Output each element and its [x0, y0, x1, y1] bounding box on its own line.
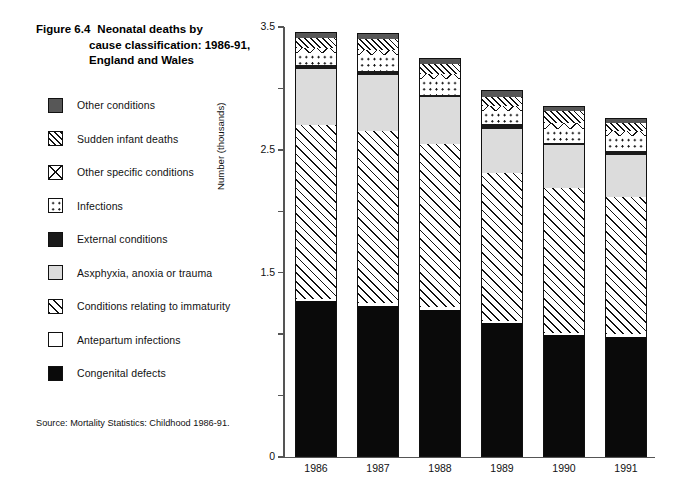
bar-1989[interactable]: [481, 90, 523, 457]
figure-title-line-3: England and Wales: [89, 53, 286, 69]
bar-segment-congenital-defects-1989[interactable]: [481, 323, 523, 457]
legend-label-other-specific-conditions: Other specific conditions: [77, 166, 194, 178]
x-axis-label-1991: 1991: [596, 462, 656, 474]
bar-segment-asxphyxia-anoxia-or-trauma-1988[interactable]: [419, 97, 461, 144]
x-axis-label-1988: 1988: [410, 462, 470, 474]
y-tick-3.5: [278, 26, 284, 27]
y-tick-0.5: [278, 395, 284, 396]
figure-page: Figure 6.4Neonatal deaths by cause class…: [0, 0, 681, 490]
legend-item-congenital-defects: Congenital defects: [48, 364, 288, 382]
legend-label-antepartum-infections: Antepartum infections: [77, 334, 181, 346]
y-tick-2.5: [278, 149, 284, 150]
bar-segment-sudden-infant-deaths-1990[interactable]: [543, 111, 585, 123]
bar-segment-sudden-infant-deaths-1988[interactable]: [419, 64, 461, 74]
legend-swatch-congenital-defects: [48, 366, 63, 381]
legend-item-antepartum-infections: Antepartum infections: [48, 331, 288, 349]
bar-segment-congenital-defects-1991[interactable]: [605, 337, 647, 457]
bar-1991[interactable]: [605, 118, 647, 457]
bar-segment-infections-1988[interactable]: [419, 79, 461, 95]
y-axis-title: Number (thousands): [215, 103, 226, 190]
bar-segment-congenital-defects-1988[interactable]: [419, 310, 461, 457]
bar-1990[interactable]: [543, 106, 585, 457]
bar-segment-conditions-relating-to-immaturity-1987[interactable]: [357, 131, 399, 303]
y-tick-3: [278, 88, 284, 89]
bar-segment-congenital-defects-1986[interactable]: [295, 301, 337, 457]
bar-segment-asxphyxia-anoxia-or-trauma-1986[interactable]: [295, 69, 337, 126]
bar-1988[interactable]: [419, 58, 461, 457]
legend-label-other-conditions: Other conditions: [77, 99, 155, 111]
y-tick-label-0: 0: [241, 450, 275, 462]
source-note: Source: Mortality Statistics: Childhood …: [36, 418, 230, 428]
legend-swatch-other-specific-conditions: [48, 165, 63, 180]
legend-label-congenital-defects: Congenital defects: [77, 367, 166, 379]
legend-swatch-external-conditions: [48, 232, 63, 247]
bar-segment-asxphyxia-anoxia-or-trauma-1989[interactable]: [481, 129, 523, 173]
bar-segment-congenital-defects-1987[interactable]: [357, 306, 399, 457]
y-tick-label-3.5: 3.5: [241, 20, 275, 32]
chart-legend: Other conditions Sudden infant deaths Ot…: [48, 96, 288, 398]
bar-1986[interactable]: [295, 32, 337, 457]
bar-1987[interactable]: [357, 33, 399, 457]
y-tick-label-1.5: 1.5: [241, 266, 275, 278]
bar-segment-asxphyxia-anoxia-or-trauma-1987[interactable]: [357, 75, 399, 132]
legend-label-immaturity: Conditions relating to immaturity: [77, 300, 230, 312]
legend-item-other-specific-conditions: Other specific conditions: [48, 163, 288, 181]
legend-swatch-immaturity: [48, 299, 63, 314]
bar-segment-asxphyxia-anoxia-or-trauma-1990[interactable]: [543, 145, 585, 188]
bar-segment-infections-1989[interactable]: [481, 111, 523, 125]
x-axis-label-1989: 1989: [472, 462, 532, 474]
legend-label-asphyxia: Asxphyxia, anoxia or trauma: [77, 267, 212, 279]
legend-swatch-other-conditions: [48, 98, 63, 113]
bar-segment-sudden-infant-deaths-1986[interactable]: [295, 38, 337, 48]
legend-label-infections: Infections: [77, 200, 123, 212]
bar-segment-infections-1991[interactable]: [605, 136, 647, 151]
bar-segment-sudden-infant-deaths-1991[interactable]: [605, 123, 647, 132]
bar-segment-conditions-relating-to-immaturity-1990[interactable]: [543, 188, 585, 333]
chart-plot-area: 01.52.53.5 Number (thousands) 1986198719…: [283, 20, 663, 470]
bar-segment-infections-1987[interactable]: [357, 55, 399, 71]
legend-swatch-antepartum-infections: [48, 332, 63, 347]
y-tick-1: [278, 333, 284, 334]
bar-segment-conditions-relating-to-immaturity-1991[interactable]: [605, 197, 647, 335]
bar-segment-conditions-relating-to-immaturity-1989[interactable]: [481, 173, 523, 320]
legend-item-other-conditions: Other conditions: [48, 96, 288, 114]
figure-title-line-2: cause classification: 1986-91,: [89, 38, 286, 54]
y-tick-1.5: [278, 272, 284, 273]
y-tick-label-2.5: 2.5: [241, 143, 275, 155]
bar-segment-conditions-relating-to-immaturity-1988[interactable]: [419, 144, 461, 307]
y-axis-line: [283, 27, 285, 457]
legend-swatch-infections: [48, 198, 63, 213]
bar-segment-sudden-infant-deaths-1987[interactable]: [357, 39, 399, 50]
bar-segment-infections-1986[interactable]: [295, 53, 337, 65]
bar-segment-infections-1990[interactable]: [543, 129, 585, 143]
figure-number: Figure 6.4: [36, 22, 90, 38]
bar-segment-conditions-relating-to-immaturity-1986[interactable]: [295, 125, 337, 298]
y-tick-0: [278, 456, 284, 457]
legend-swatch-asphyxia: [48, 265, 63, 280]
y-tick-2: [278, 211, 284, 212]
figure-title-line-1: Neonatal deaths by: [97, 23, 202, 35]
legend-swatch-sudden-infant-deaths: [48, 131, 63, 146]
bar-segment-sudden-infant-deaths-1989[interactable]: [481, 97, 523, 106]
legend-label-external-conditions: External conditions: [77, 233, 168, 245]
x-axis-label-1986: 1986: [286, 462, 346, 474]
legend-item-external-conditions: External conditions: [48, 230, 288, 248]
x-axis-line: [283, 457, 655, 458]
legend-item-infections: Infections: [48, 197, 288, 215]
bar-segment-congenital-defects-1990[interactable]: [543, 335, 585, 457]
legend-item-immaturity: Conditions relating to immaturity: [48, 297, 288, 315]
legend-label-sudden-infant-deaths: Sudden infant deaths: [77, 133, 178, 145]
bar-segment-other-conditions-1989[interactable]: [481, 90, 523, 97]
x-axis-label-1990: 1990: [534, 462, 594, 474]
x-axis-label-1987: 1987: [348, 462, 408, 474]
bar-segment-asxphyxia-anoxia-or-trauma-1991[interactable]: [605, 155, 647, 197]
